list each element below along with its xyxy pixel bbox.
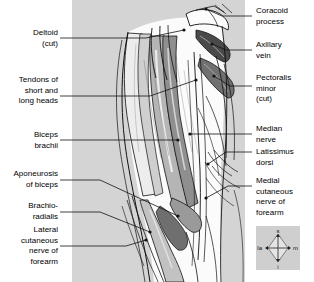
compass-lateral-label: la — [257, 245, 262, 251]
label-median-nerve: Median nerve — [256, 124, 314, 145]
compass-superior-label: s — [277, 228, 280, 234]
label-deltoid: Deltoid (cut) — [0, 28, 58, 49]
label-latissimus-dorsi: Latissimus dorsi — [256, 147, 314, 168]
label-axillary-vein: Axillary vein — [256, 40, 314, 61]
label-aponeurosis-of-biceps: Aponeurosis of biceps — [0, 169, 58, 190]
label-pectoralis-minor: Pectoralis minor (cut) — [256, 73, 314, 105]
label-tendons-short-long-heads: Tendons of short and long heads — [0, 75, 58, 107]
label-biceps-brachii: Biceps brachii — [0, 130, 58, 151]
anatomy-figure: s i la m Deltoid (cut) Tendons of short … — [0, 0, 314, 282]
label-brachioradialis: Brachio- radialis — [0, 201, 58, 222]
label-coracoid-process: Coracoid process — [256, 6, 314, 27]
compass-medial-label: m — [293, 245, 298, 251]
label-lateral-cutaneous-nerve-of-forearm: Lateral cutaneous nerve of forearm — [0, 225, 58, 267]
label-medial-cutaneous-nerve-of-forearm: Medial cutaneous nerve of forearm — [256, 176, 314, 218]
compass-inferior-label: i — [277, 264, 278, 270]
orientation-compass: s i la m — [256, 226, 300, 270]
